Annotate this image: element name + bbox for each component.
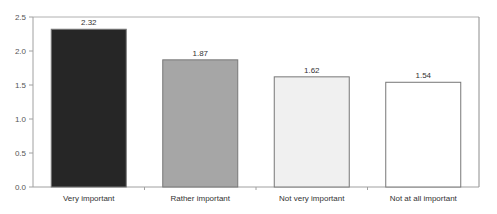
x-axis: Very importantRather importantNot very i… [33, 187, 479, 203]
bar [274, 77, 349, 187]
y-tick-label: 1.0 [15, 115, 27, 124]
x-tick-label: Rather important [170, 194, 230, 203]
y-axis: 0.00.51.01.52.02.5 [15, 13, 33, 192]
y-tick-label: 2.0 [15, 47, 27, 56]
data-label: 2.32 [81, 18, 97, 27]
y-tick-label: 1.5 [15, 81, 27, 90]
data-label: 1.54 [415, 71, 431, 80]
bar [386, 82, 461, 187]
x-tick-label: Not very important [279, 194, 345, 203]
y-tick-label: 0.0 [15, 183, 27, 192]
x-tick-label: Not at all important [390, 194, 458, 203]
bar [51, 29, 126, 187]
data-label: 1.62 [304, 66, 320, 75]
x-tick-label: Very important [63, 194, 115, 203]
bars: 2.321.871.621.54 [51, 18, 461, 187]
data-label: 1.87 [192, 49, 208, 58]
y-tick-label: 2.5 [15, 13, 27, 22]
bar-chart: 0.00.51.01.52.02.5 Very importantRather … [0, 0, 497, 214]
y-tick-label: 0.5 [15, 149, 27, 158]
bar [163, 60, 238, 187]
